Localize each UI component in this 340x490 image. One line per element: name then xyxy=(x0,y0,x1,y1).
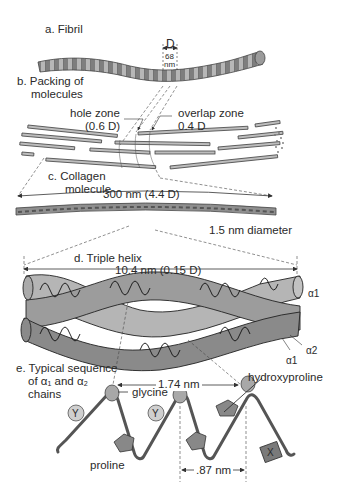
molecule-diameter: 1.5 nm diameter xyxy=(209,224,292,237)
y-residues xyxy=(68,405,164,421)
panel-c-label-1: c. Collagen xyxy=(48,170,106,183)
alpha2-label: α2 xyxy=(306,344,317,357)
glycine-icon xyxy=(105,385,119,401)
period-unit: nm xyxy=(164,61,175,69)
y-residue-label-2: Y xyxy=(152,407,159,420)
collagen-molecule-rope xyxy=(16,203,276,215)
hole-zone-value: (0.6 D) xyxy=(85,120,120,133)
panel-e-label-1: e. Typical sequence xyxy=(16,362,117,375)
glycine-label: glycine xyxy=(132,386,168,399)
zoom-lines-ab xyxy=(120,86,177,145)
x-residue-label: X xyxy=(267,446,274,459)
overlap-zone-label: overlap zone xyxy=(178,107,244,120)
molecule-packing xyxy=(20,121,283,169)
molecule-length: 300 nm (4.4 D) xyxy=(103,188,180,201)
proline-icon xyxy=(114,434,134,452)
alpha1-top-label: α1 xyxy=(308,287,319,300)
y-residue-label-1: Y xyxy=(72,407,79,420)
alpha1-bottom-label: α1 xyxy=(286,354,297,367)
proline-label: proline xyxy=(90,459,125,472)
diagram-canvas xyxy=(0,0,340,490)
peptide-chain xyxy=(57,393,294,458)
panel-e-label-3: chains xyxy=(28,388,61,401)
period-symbol: D xyxy=(166,38,175,51)
panel-b-label-1: b. Packing of xyxy=(17,75,83,88)
helix-pitch: 10.4 nm (0.15 D) xyxy=(115,264,201,277)
zone-pointers xyxy=(124,116,172,130)
panel-b-label-2: molecules xyxy=(31,88,83,101)
proline-icon xyxy=(186,432,206,450)
panel-e-label-2: of α₁ and α₂ xyxy=(28,375,88,388)
hydroxyproline-label: hydroxyproline xyxy=(248,371,323,384)
triple-helix xyxy=(21,272,303,371)
fibril-end-cap xyxy=(255,51,265,65)
residue-distance: .87 nm xyxy=(194,464,233,477)
overlap-zone-value: 0.4 D xyxy=(178,120,206,133)
panel-a-label: a. Fibril xyxy=(45,23,83,36)
hole-zone-label: hole zone xyxy=(70,107,120,120)
